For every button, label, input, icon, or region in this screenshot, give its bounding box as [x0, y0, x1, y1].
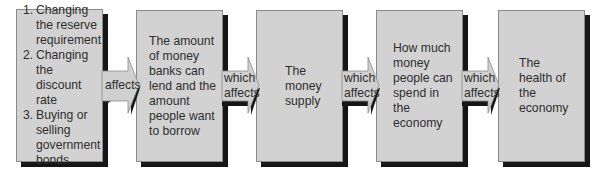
box-policy-tools: 1.Changing the reserve requirement 2.Cha…	[16, 9, 103, 162]
box-money-supply-text: The money supply	[285, 64, 324, 109]
arrow-affects: affects	[102, 56, 142, 116]
arrow-label-line1: which	[224, 71, 255, 86]
policy-tools-list: 1.Changing the reserve requirement 2.Cha…	[23, 3, 98, 168]
arrow-label-line2: affects	[344, 86, 380, 101]
arrow-label-line2: affects	[464, 86, 500, 101]
box-lending-text: The amount of money banks can lend and t…	[149, 34, 218, 139]
box-spending-text: How much money people can spend in the e…	[393, 41, 458, 131]
list-item: 3.Buying or selling government bonds	[23, 108, 98, 168]
box-spending: How much money people can spend in the e…	[376, 10, 463, 162]
arrow-label-line2: affects	[224, 86, 260, 101]
arrow-which-affects: which affects	[222, 56, 262, 116]
box-economy-health-text: The health of the economy	[519, 56, 576, 116]
arrow-label: affects	[105, 78, 141, 93]
arrow-label-line1: which	[464, 71, 495, 86]
list-item: 1.Changing the reserve requirement	[23, 3, 98, 48]
box-lending: The amount of money banks can lend and t…	[136, 10, 223, 162]
arrow-which-affects: which affects	[462, 56, 502, 116]
list-item: 2.Changing the discount rate	[23, 48, 98, 108]
box-money-supply: The money supply	[256, 10, 343, 162]
arrow-label-line1: which	[344, 71, 375, 86]
box-economy-health: The health of the economy	[498, 10, 585, 162]
arrow-which-affects: which affects	[342, 56, 382, 116]
